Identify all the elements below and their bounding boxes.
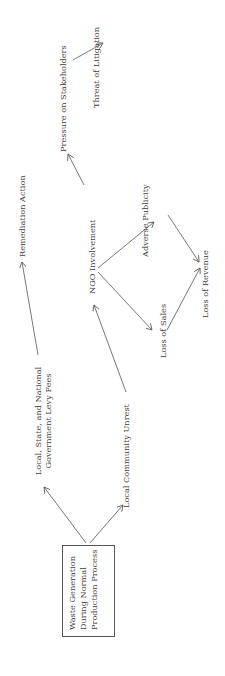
loss-of-sales-label: Loss of Sales xyxy=(158,304,168,358)
waste-line-3: Production Process xyxy=(89,550,100,630)
flowchart-diagram: Waste Generation During Normal Productio… xyxy=(0,0,225,676)
remediation-action-node: Remediation Action xyxy=(17,175,27,257)
arrow-unrest-to-ngo xyxy=(94,305,126,392)
ngo-involvement-node: NGO Involvement xyxy=(87,220,97,294)
adverse-publicity-label: Adverse Publicity xyxy=(140,184,150,257)
levy-line-2: Government Levy Fees xyxy=(43,362,53,480)
arrow-sales-to-revenue xyxy=(167,268,200,330)
threat-litigation-node: Threat of Litigation xyxy=(91,27,101,108)
levy-fees-node: Local, State, and National Government Le… xyxy=(33,362,53,480)
pressure-stakeholders-node: Pressure on Stakeholders xyxy=(58,45,68,152)
levy-line-1: Local, State, and National xyxy=(33,362,43,480)
threat-litigation-label: Threat of Litigation xyxy=(91,27,101,108)
loss-of-sales-node: Loss of Sales xyxy=(158,304,168,358)
arrow-waste-to-unrest xyxy=(90,505,123,543)
adverse-publicity-node: Adverse Publicity xyxy=(140,184,150,257)
waste-line-1: Waste Generation xyxy=(67,550,78,630)
loss-of-revenue-node: Loss of Revenue xyxy=(200,250,210,318)
arrow-levy-to-remediation xyxy=(22,262,38,355)
arrow-ngo-to-pressure xyxy=(68,154,84,185)
remediation-action-label: Remediation Action xyxy=(17,175,27,257)
loss-of-revenue-label: Loss of Revenue xyxy=(200,250,210,318)
pressure-stakeholders-label: Pressure on Stakeholders xyxy=(58,45,68,152)
ngo-involvement-label: NGO Involvement xyxy=(87,220,97,294)
community-unrest-node: Local Community Unrest xyxy=(121,404,131,508)
arrow-waste-to-levy xyxy=(44,487,86,543)
community-unrest-label: Local Community Unrest xyxy=(121,404,131,508)
arrow-publicity-to-revenue xyxy=(168,215,199,262)
waste-line-2: During Normal xyxy=(78,550,89,630)
waste-generation-label: Waste Generation During Normal Productio… xyxy=(67,550,100,630)
arrow-ngo-to-sales xyxy=(98,272,152,330)
